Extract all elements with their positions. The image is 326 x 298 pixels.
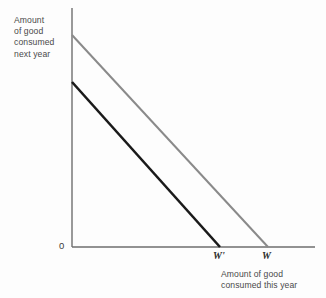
inner-budget-line bbox=[72, 82, 220, 247]
x-tick-label-w-prime: W' bbox=[213, 250, 225, 261]
budget-constraint-figure: 0 Amount of good consumed next year W' W… bbox=[0, 0, 326, 298]
x-tick-label-w: W bbox=[262, 250, 271, 261]
y-axis-label: Amount of good consumed next year bbox=[14, 15, 74, 60]
x-axis-label: Amount of good consumed this year bbox=[221, 269, 325, 291]
origin-label: 0 bbox=[59, 240, 64, 251]
outer-budget-line bbox=[72, 35, 268, 247]
